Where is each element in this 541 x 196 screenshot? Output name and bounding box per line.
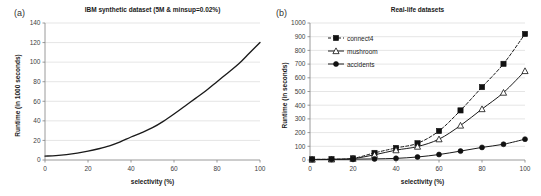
y-tick-label-1: 20 [33, 137, 41, 144]
legend-label-accidents: accidents [347, 61, 375, 68]
chart-a-plot-area: 020406080100120140020406080100 [0, 0, 270, 196]
data-point-marker-accidents-4 [394, 156, 399, 161]
data-point-marker-accidents-3 [372, 156, 377, 161]
y-tick-label-3: 60 [33, 98, 41, 105]
y-tick-label-5: 500 [295, 88, 306, 95]
data-point-marker-legend-connect4 [333, 35, 338, 40]
data-point-marker-connect4-10 [522, 31, 527, 36]
chart-panel-a: (a) IBM synthetic dataset (5M & minsup=0… [0, 0, 270, 196]
x-tick-label-3: 60 [170, 165, 178, 172]
y-tick-label-2: 40 [33, 117, 41, 124]
x-tick-label-1: 20 [84, 165, 92, 172]
x-tick-label-4: 80 [478, 165, 486, 172]
data-point-marker-accidents-1 [329, 157, 334, 162]
data-point-marker-accidents-10 [523, 137, 528, 142]
y-tick-label-4: 80 [33, 78, 41, 85]
x-tick-label-5: 100 [255, 165, 266, 172]
y-tick-label-5: 100 [30, 58, 41, 65]
x-tick-label-3: 60 [435, 165, 443, 172]
y-tick-label-3: 300 [295, 115, 306, 122]
y-tick-label-2: 200 [295, 129, 306, 136]
data-point-marker-connect4-6 [436, 128, 441, 133]
x-tick-label-2: 40 [127, 165, 135, 172]
data-point-marker-accidents-0 [310, 157, 315, 162]
figure-container: (a) IBM synthetic dataset (5M & minsup=0… [0, 0, 541, 196]
data-point-marker-connect4-9 [501, 61, 506, 66]
data-point-marker-accidents-7 [458, 149, 463, 154]
y-tick-label-7: 700 [295, 60, 306, 67]
y-tick-label-4: 400 [295, 102, 306, 109]
y-tick-label-0: 0 [302, 156, 306, 163]
plot-background [45, 23, 260, 160]
y-tick-label-9: 900 [295, 33, 306, 40]
x-tick-label-2: 40 [392, 165, 400, 172]
data-point-marker-accidents-2 [351, 157, 356, 162]
y-tick-label-6: 120 [30, 39, 41, 46]
data-point-marker-connect4-8 [479, 85, 484, 90]
y-tick-label-8: 800 [295, 47, 306, 54]
chart-b-plot-area: 0100200300400500600700800900100002040608… [270, 0, 540, 196]
y-tick-label-0: 0 [37, 156, 41, 163]
x-tick-label-4: 80 [213, 165, 221, 172]
y-tick-label-1: 100 [295, 143, 306, 150]
y-tick-label-6: 600 [295, 74, 306, 81]
data-point-marker-connect4-7 [458, 108, 463, 113]
legend-label-mushroom: mushroom [347, 48, 378, 55]
data-point-marker-accidents-6 [437, 152, 442, 157]
x-tick-label-0: 0 [308, 165, 312, 172]
x-tick-label-5: 100 [520, 165, 531, 172]
legend-label-connect4: connect4 [347, 35, 374, 42]
x-tick-label-1: 20 [349, 165, 357, 172]
data-point-marker-accidents-8 [480, 145, 485, 150]
y-tick-label-7: 140 [30, 19, 41, 26]
data-point-marker-accidents-9 [501, 142, 506, 147]
y-tick-label-10: 1000 [291, 19, 306, 26]
x-tick-label-0: 0 [43, 165, 47, 172]
data-point-marker-legend-accidents [334, 62, 339, 67]
chart-panel-b: (b) Real-life datasets Runtime (in secon… [270, 0, 540, 196]
data-point-marker-accidents-5 [415, 154, 420, 159]
